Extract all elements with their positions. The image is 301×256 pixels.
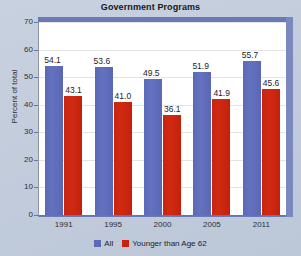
chart-legend: AllYounger than Age 62 <box>0 239 301 248</box>
legend-item[interactable]: Younger than Age 62 <box>122 239 206 248</box>
bar <box>144 79 162 215</box>
y-tick-mark <box>34 187 38 188</box>
y-tick-mark <box>34 215 38 216</box>
bar <box>193 72 211 215</box>
bar <box>95 67 113 215</box>
bar <box>163 115 181 215</box>
legend-label: Younger than Age 62 <box>132 239 206 248</box>
y-tick-mark <box>34 77 38 78</box>
y-tick-mark <box>34 105 38 106</box>
bar <box>243 61 261 215</box>
chart-title: Government Programs <box>0 2 301 12</box>
y-tick-mark <box>34 132 38 133</box>
bar <box>45 66 63 215</box>
y-tick-mark <box>34 160 38 161</box>
bar-data-label: 55.7 <box>242 50 259 60</box>
legend-item[interactable]: All <box>94 239 113 248</box>
x-tick-label: 2005 <box>190 220 234 229</box>
y-tick-label: 50 <box>3 72 33 81</box>
x-tick-label: 1991 <box>42 220 86 229</box>
bar <box>64 96 82 215</box>
y-tick-label: 30 <box>3 127 33 136</box>
x-tick-label: 2011 <box>239 220 283 229</box>
bar-data-label: 43.1 <box>65 85 82 95</box>
y-tick-mark <box>34 22 38 23</box>
bar <box>262 89 280 215</box>
y-tick-label: 0 <box>3 210 33 219</box>
y-tick-mark <box>34 50 38 51</box>
bar-data-label: 45.6 <box>263 78 280 88</box>
y-tick-label: 20 <box>3 155 33 164</box>
x-tick-label: 2000 <box>141 220 185 229</box>
chart-container: Government Programs Percent of total 010… <box>0 0 301 256</box>
bar-data-label: 54.1 <box>44 55 61 65</box>
bar-data-label: 49.5 <box>143 68 160 78</box>
y-tick-label: 10 <box>3 182 33 191</box>
legend-label: All <box>104 239 113 248</box>
bar <box>114 102 132 215</box>
y-tick-label: 70 <box>3 17 33 26</box>
bar <box>212 99 230 215</box>
y-tick-label: 60 <box>3 45 33 54</box>
bar-data-label: 36.1 <box>164 104 181 114</box>
bar-data-label: 41.9 <box>213 88 230 98</box>
x-tick-label: 1995 <box>91 220 135 229</box>
legend-swatch-icon <box>94 240 101 247</box>
bar-data-label: 41.0 <box>115 91 132 101</box>
y-tick-label: 40 <box>3 100 33 109</box>
plot-3d-right-face <box>286 17 293 217</box>
bar-data-label: 51.9 <box>192 61 209 71</box>
bar-data-label: 53.6 <box>94 56 111 66</box>
legend-swatch-icon <box>122 240 129 247</box>
